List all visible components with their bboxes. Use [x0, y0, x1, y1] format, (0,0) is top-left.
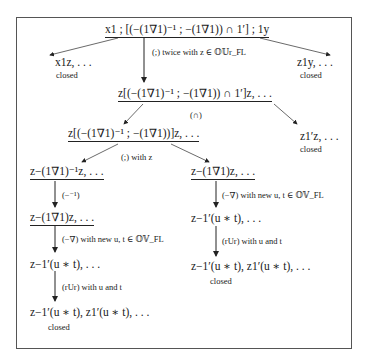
label-semi-z: (;) with z: [121, 152, 152, 162]
label-neg-nabla-right: (−∇) with new u, t ∈ 𝕆𝕍_FL: [222, 190, 324, 200]
node-mid: z[(−(1∇1)⁻¹ ; −(1∇1)) ∩ 1′]z, . . .: [118, 87, 272, 102]
label-rur-right: (rUr) with u and t: [222, 236, 282, 246]
node-mid-left: z[(−(1∇1)⁻¹ ; −(1∇1))]z, . . .: [68, 127, 199, 142]
label-inv: (−⁻¹): [62, 190, 80, 200]
node-right-top: z1y, . . .: [297, 56, 333, 69]
node-ll3: z−1′(u ∗ t), . . .: [30, 258, 100, 271]
closed-left-top: closed: [56, 70, 78, 80]
label-neg-nabla-left: (−∇) with new u, t ∈ 𝕆𝕍_FL: [62, 234, 164, 244]
node-rl1: z−(1∇1)z, . . .: [191, 165, 255, 180]
root-node: x1 ; [(−(1∇1)⁻¹ ; −(1∇1)) ∩ 1′] ; 1y: [105, 23, 269, 38]
closed-mid-right: closed: [300, 144, 322, 154]
label-rur-left: (rUr) with u and t: [62, 282, 122, 292]
closed-right-top: closed: [300, 70, 322, 80]
label-twice: (;) twice with z ∈ 𝕆𝕌r_FL: [152, 47, 246, 57]
node-left-top: x1z, . . .: [55, 56, 92, 69]
node-rl2: z−1′(u ∗ t), . . .: [191, 212, 261, 225]
node-ll2: z−(1∇1)z, . . .: [30, 211, 94, 226]
node-ll4: z−1′(u ∗ t), z1′(u ∗ t), . . .: [30, 306, 149, 319]
node-mid-right: z1′z, . . .: [300, 130, 339, 143]
closed-rl3: closed: [210, 276, 232, 286]
node-rl3: z−1′(u ∗ t), z1′(u ∗ t), . . .: [191, 260, 310, 273]
label-cap: (∩): [190, 110, 202, 120]
closed-ll4: closed: [48, 322, 70, 332]
node-ll1: z−(1∇1)⁻¹z, . . .: [30, 165, 104, 180]
